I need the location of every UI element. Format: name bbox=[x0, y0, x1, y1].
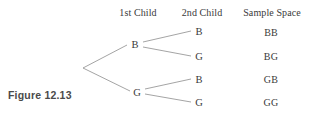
sample-space-outcome-gb: GB bbox=[264, 74, 278, 85]
sample-space-outcome-bb: BB bbox=[264, 27, 278, 38]
column-header-1st-child: 1st Child bbox=[119, 7, 156, 18]
sample-space-outcome-gg: GG bbox=[264, 97, 279, 108]
node-first-child-boy: B bbox=[131, 39, 138, 50]
node-second-child-bb: B bbox=[195, 26, 202, 37]
branch-g-to-b bbox=[145, 79, 191, 89]
figure-tree-diagram: 1st Child 2nd Child Sample Space B G B G… bbox=[0, 0, 320, 115]
node-second-child-gb: B bbox=[195, 74, 202, 85]
branch-root-to-g bbox=[83, 68, 130, 91]
column-header-sample-space: Sample Space bbox=[243, 7, 301, 18]
figure-caption: Figure 12.13 bbox=[8, 89, 72, 101]
node-first-child-girl: G bbox=[133, 87, 141, 98]
branch-b-to-g bbox=[143, 47, 191, 56]
branch-g-to-g bbox=[145, 94, 191, 102]
node-second-child-gg: G bbox=[195, 97, 203, 108]
column-header-2nd-child: 2nd Child bbox=[182, 7, 223, 18]
branch-b-to-b bbox=[143, 31, 191, 42]
node-second-child-bg: G bbox=[195, 51, 203, 62]
branch-root-to-b bbox=[83, 45, 127, 68]
sample-space-outcome-bg: BG bbox=[264, 51, 278, 62]
